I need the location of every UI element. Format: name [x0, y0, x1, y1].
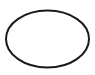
drawing-canvas [0, 0, 95, 75]
